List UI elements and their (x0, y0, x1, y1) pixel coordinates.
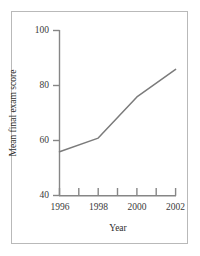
y-tick-label-60: 60 (31, 136, 49, 146)
y-tick-label-100: 100 (31, 26, 49, 36)
x-tick-label-1998: 1998 (89, 203, 108, 213)
chart-figure: 100 80 60 40 1996 1998 2000 2002 Mean fi… (0, 0, 200, 256)
x-tick-label-1996: 1996 (51, 203, 70, 213)
y-tick-label-40: 40 (31, 191, 49, 201)
x-tick-label-2000: 2000 (128, 203, 147, 213)
y-tick-label-80: 80 (31, 81, 49, 91)
x-tick-label-2002: 2002 (166, 203, 185, 213)
x-axis-title: Year (109, 224, 127, 234)
data-line-mean-exam-score (60, 69, 176, 151)
line-chart-plot (0, 0, 200, 256)
y-axis-title: Mean final exam score (9, 70, 19, 157)
